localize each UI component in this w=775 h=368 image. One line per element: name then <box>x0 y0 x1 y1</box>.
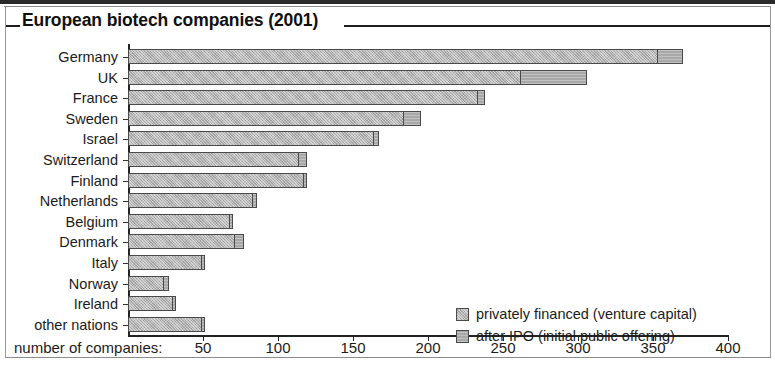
bar-segment-private <box>128 131 374 146</box>
bar-row: UK <box>0 68 775 88</box>
bar-segment-ipo <box>172 296 176 311</box>
stacked-bar[interactable] <box>128 234 244 249</box>
category-label: Sweden <box>0 109 118 129</box>
bar-segment-private <box>128 296 173 311</box>
category-label: Switzerland <box>0 150 118 170</box>
bar-segment-ipo <box>298 152 307 167</box>
bar-row: Sweden <box>0 109 775 129</box>
category-label: Israel <box>0 129 118 149</box>
bar-segment-private <box>128 317 202 332</box>
x-axis-tick-label: 400 <box>698 339 758 356</box>
chart-title: European biotech companies (2001) <box>22 12 318 30</box>
stacked-bar[interactable] <box>128 70 587 85</box>
bar-row: Netherlands <box>0 191 775 211</box>
bar-row: Norway <box>0 274 775 294</box>
bar-segment-private <box>128 193 253 208</box>
category-label: Netherlands <box>0 191 118 211</box>
bar-segment-private <box>128 255 202 270</box>
bar-segment-private <box>128 214 230 229</box>
stacked-bar[interactable] <box>128 193 257 208</box>
category-label: France <box>0 88 118 108</box>
category-label: other nations <box>0 315 118 335</box>
bar-segment-ipo <box>234 234 244 249</box>
legend-swatch-private <box>456 308 469 321</box>
bar-row: Italy <box>0 253 775 273</box>
category-label: Finland <box>0 171 118 191</box>
bar-segment-ipo <box>303 173 307 188</box>
x-axis-tick-label: 250 <box>473 339 533 356</box>
bar-segment-ipo <box>201 317 205 332</box>
legend-item[interactable]: privately financed (venture capital) <box>456 303 697 325</box>
title-rule-right <box>344 25 770 27</box>
bar-row: Denmark <box>0 232 775 252</box>
bar-row: Switzerland <box>0 150 775 170</box>
stacked-bar[interactable] <box>128 152 307 167</box>
bar-segment-private <box>128 70 521 85</box>
x-axis-tick-label: 50 <box>173 339 233 356</box>
x-axis-tick-labels: 50100150200250300350400 <box>0 339 775 363</box>
x-axis-tick-label: 150 <box>323 339 383 356</box>
stacked-bar[interactable] <box>128 90 485 105</box>
bar-segment-ipo <box>163 276 169 291</box>
stacked-bar[interactable] <box>128 173 307 188</box>
bar-segment-private <box>128 49 658 64</box>
bar-segment-ipo <box>373 131 379 146</box>
bar-row: Belgium <box>0 212 775 232</box>
stacked-bar[interactable] <box>128 131 379 146</box>
title-rule-left <box>6 25 20 27</box>
plot-area: GermanyUKFranceSwedenIsraelSwitzerlandFi… <box>0 44 775 344</box>
stacked-bar[interactable] <box>128 49 683 64</box>
category-label: Norway <box>0 274 118 294</box>
legend-label: privately financed (venture capital) <box>476 307 697 322</box>
bar-segment-ipo <box>403 111 421 126</box>
bar-segment-private <box>128 111 404 126</box>
bar-segment-ipo <box>201 255 205 270</box>
category-label: Belgium <box>0 212 118 232</box>
bar-segment-private <box>128 234 235 249</box>
bar-row: France <box>0 88 775 108</box>
x-axis-tick-label: 200 <box>398 339 458 356</box>
bar-segment-private <box>128 152 299 167</box>
category-label: Italy <box>0 253 118 273</box>
bar-row: Germany <box>0 47 775 67</box>
bar-row: Israel <box>0 129 775 149</box>
stacked-bar[interactable] <box>128 276 169 291</box>
stacked-bar[interactable] <box>128 296 176 311</box>
bar-segment-ipo <box>229 214 233 229</box>
bar-row: Finland <box>0 171 775 191</box>
x-axis-tick-label: 350 <box>623 339 683 356</box>
x-axis-tick-label: 100 <box>248 339 308 356</box>
frame-top-rule <box>4 6 771 7</box>
stacked-bar[interactable] <box>128 111 421 126</box>
figure-panel: European biotech companies (2001) German… <box>0 0 775 368</box>
stacked-bar[interactable] <box>128 317 205 332</box>
x-axis-tick-label: 300 <box>548 339 608 356</box>
bar-segment-ipo <box>477 90 486 105</box>
bar-segment-ipo <box>252 193 258 208</box>
category-label: Germany <box>0 47 118 67</box>
bar-segment-private <box>128 173 304 188</box>
category-label: UK <box>0 68 118 88</box>
category-label: Denmark <box>0 232 118 252</box>
stacked-bar[interactable] <box>128 214 233 229</box>
category-label: Ireland <box>0 294 118 314</box>
bar-segment-ipo <box>657 49 684 64</box>
bar-segment-ipo <box>520 70 587 85</box>
stacked-bar[interactable] <box>128 255 205 270</box>
bar-segment-private <box>128 90 478 105</box>
bar-segment-private <box>128 276 164 291</box>
